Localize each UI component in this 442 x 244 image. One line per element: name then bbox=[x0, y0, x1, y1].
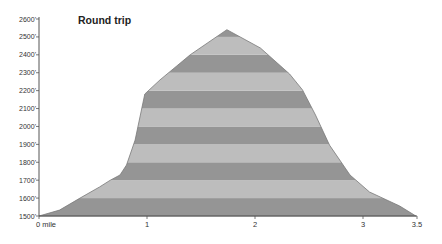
elevation-band bbox=[39, 180, 439, 198]
y-tick-label: 1800' bbox=[19, 159, 36, 166]
y-tick-label: 2300' bbox=[19, 69, 36, 76]
elevation-band bbox=[39, 144, 439, 162]
y-tick-label: 2000' bbox=[19, 123, 36, 130]
y-tick-label: 1600' bbox=[19, 195, 36, 202]
x-tick-label: 1 bbox=[145, 220, 149, 229]
y-tick-label: 1700' bbox=[19, 177, 36, 184]
y-tick-label: 2100' bbox=[19, 105, 36, 112]
y-tick-label: 2200' bbox=[19, 87, 36, 94]
elevation-band bbox=[39, 37, 439, 55]
y-tick-label: 2500' bbox=[19, 33, 36, 40]
elevation-bands bbox=[39, 19, 439, 216]
elevation-band bbox=[39, 162, 439, 180]
elevation-band bbox=[39, 91, 439, 109]
elevation-band bbox=[39, 109, 439, 127]
elevation-band bbox=[39, 73, 439, 91]
x-tick-label: 3 bbox=[361, 220, 365, 229]
elevation-chart: 1500'1600'1700'1800'1900'2000'2100'2200'… bbox=[0, 0, 442, 244]
y-tick-label: 1900' bbox=[19, 141, 36, 148]
y-tick-label: 2400' bbox=[19, 51, 36, 58]
elevation-band bbox=[39, 19, 439, 37]
x-tick-label: 0 mile bbox=[36, 220, 56, 229]
x-tick-label: 2 bbox=[253, 220, 257, 229]
y-tick-label: 2600' bbox=[19, 16, 36, 23]
elevation-band bbox=[39, 55, 439, 73]
y-tick-label: 1500' bbox=[19, 213, 36, 220]
elevation-band bbox=[39, 198, 439, 216]
elevation-band bbox=[39, 126, 439, 144]
x-tick-label: 3.5 bbox=[412, 220, 422, 229]
